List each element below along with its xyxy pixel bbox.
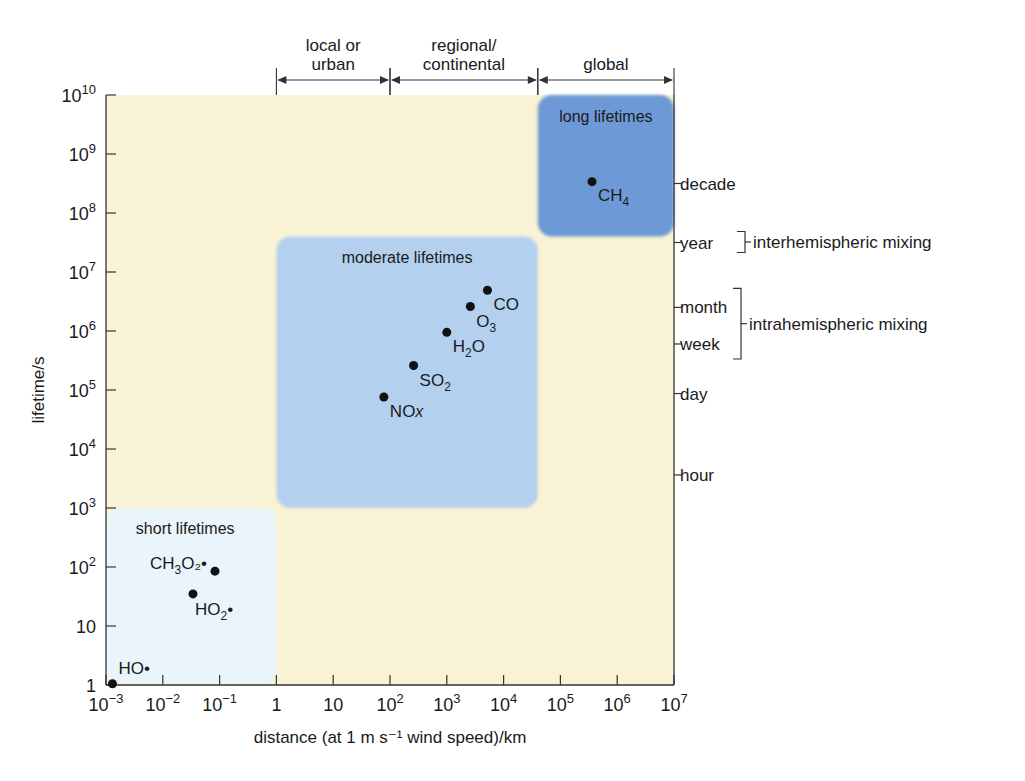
data-point	[483, 286, 492, 295]
data-point	[379, 393, 388, 402]
time-label-hour: hour	[680, 466, 714, 485]
data-point	[409, 361, 418, 370]
distance-scale-ranges: local orurbanregional/continentalglobal	[276, 36, 674, 95]
lifetime-distance-chart: short lifetimesmoderate lifetimeslong li…	[0, 0, 1025, 781]
range-label: local or	[306, 36, 361, 55]
range-label: global	[583, 55, 628, 74]
right-time-axis: decadeyearmonthweekdayhourinterhemispher…	[674, 175, 932, 485]
x-tick-label: 107	[660, 691, 687, 715]
y-tick-label: 104	[69, 436, 96, 460]
y-tick-label: 10	[76, 617, 96, 637]
bracket-label: intrahemispheric mixing	[749, 315, 928, 334]
arrow-left-icon	[539, 76, 548, 84]
range-label: regional/	[431, 36, 496, 55]
region-long-label: long lifetimes	[559, 108, 652, 125]
data-point	[108, 679, 117, 688]
time-label-year: year	[680, 234, 713, 253]
x-tick-label: 102	[376, 691, 403, 715]
bracket-icon	[733, 288, 741, 359]
y-tick-label: 105	[69, 377, 96, 401]
range-label: urban	[311, 55, 354, 74]
time-label-month: month	[680, 298, 727, 317]
x-tick-label: 104	[490, 691, 517, 715]
x-tick-label: 10−1	[202, 691, 237, 715]
y-axis-title: lifetime/s	[29, 356, 48, 423]
x-tick-label: 10−3	[89, 691, 124, 715]
region-moderate	[276, 236, 537, 508]
x-axis-title: distance (at 1 m s⁻¹ wind speed)/km	[254, 728, 527, 747]
bracket-icon	[737, 232, 745, 253]
y-tick-label: 102	[69, 554, 96, 578]
time-label-day: day	[680, 385, 708, 404]
region-short-label: short lifetimes	[136, 520, 235, 537]
data-point	[587, 177, 596, 186]
y-tick-label: 107	[69, 259, 96, 283]
range-label: continental	[423, 55, 505, 74]
arrow-right-icon	[664, 76, 673, 84]
y-tick-label: 109	[69, 141, 96, 165]
y-tick-label: 1010	[62, 82, 96, 106]
x-tick-label: 1	[271, 695, 281, 715]
data-point	[188, 589, 197, 598]
point-label: NOx	[390, 402, 425, 421]
arrow-right-icon	[380, 76, 389, 84]
x-tick-label: 10	[323, 695, 343, 715]
y-tick-label: 1	[86, 676, 96, 696]
data-point	[442, 328, 451, 337]
y-tick-label: 108	[69, 200, 96, 224]
y-tick-label: 103	[69, 495, 96, 519]
arrow-left-icon	[391, 76, 400, 84]
bracket-label: interhemispheric mixing	[753, 233, 932, 252]
time-label-decade: decade	[680, 175, 736, 194]
point-label: CO	[493, 295, 519, 314]
data-point	[466, 302, 475, 311]
arrow-left-icon	[277, 76, 286, 84]
x-tick-label: 103	[433, 691, 460, 715]
point-label: HO•	[118, 659, 150, 678]
x-tick-label: 105	[547, 691, 574, 715]
x-tick-label: 10−2	[145, 691, 180, 715]
data-point	[211, 567, 220, 576]
y-tick-label: 106	[69, 318, 96, 342]
x-tick-label: 106	[604, 691, 631, 715]
time-label-week: week	[679, 335, 720, 354]
arrow-right-icon	[528, 76, 537, 84]
region-moderate-label: moderate lifetimes	[342, 249, 473, 266]
